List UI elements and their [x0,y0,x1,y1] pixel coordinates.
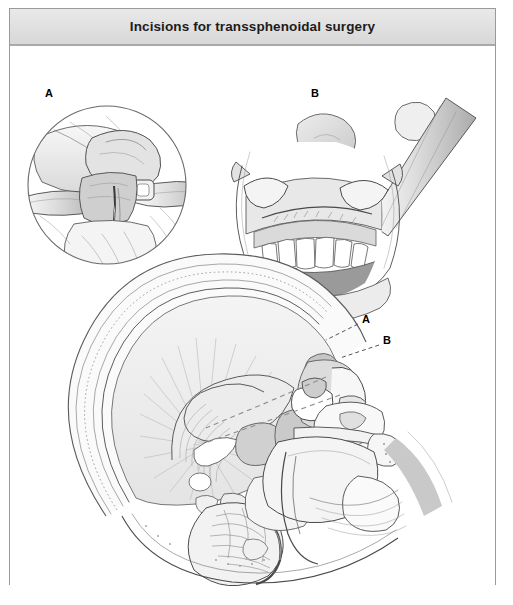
mandible [343,476,400,531]
callout-b-label: B [383,334,391,346]
sagittal-section-group [68,254,452,586]
panel-a-label: A [45,87,53,99]
callout-a-label: A [362,313,370,325]
panel-a-group: A [18,87,216,272]
illustration-canvas: A [10,46,495,586]
panel-b-label: B [311,87,319,99]
figure-frame: Incisions for transsphenoidal surgery [9,8,496,585]
illustration-svg: A [10,46,497,586]
figure-title: Incisions for transsphenoidal surgery [10,9,495,44]
figure-title-bar: Incisions for transsphenoidal surgery [10,9,495,46]
